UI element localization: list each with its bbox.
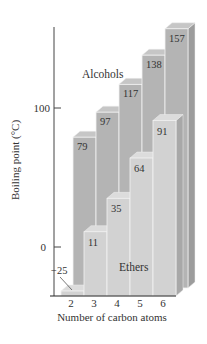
x-tick-label: 6 — [160, 297, 166, 309]
series-label-ethers: Ethers — [119, 261, 149, 273]
ether-value-label: 11 — [88, 237, 98, 248]
alcohol-value-label: 79 — [77, 141, 88, 152]
alcohol-value-label: 157 — [169, 33, 185, 44]
y-axis-label: Boiling point (°C) — [9, 120, 22, 201]
ether-value-label: 91 — [157, 126, 168, 137]
x-tick-label: 5 — [137, 297, 143, 309]
x-tick-labels: 23456 — [68, 297, 166, 309]
alcohol-value-label: 138 — [146, 59, 162, 70]
svg-text:−25: −25 — [51, 265, 67, 276]
x-tick-label: 2 — [68, 297, 74, 309]
ether-bar-4: 91 — [153, 115, 183, 296]
ytick-label-0: 0 — [41, 241, 47, 253]
ether-value-label: 35 — [111, 203, 122, 214]
alcohol-value-label: 117 — [123, 88, 138, 99]
series-label-alcohols: Alcohols — [82, 68, 124, 80]
ytick-label-100: 100 — [34, 102, 51, 114]
x-axis-label: Number of carbon atoms — [57, 311, 167, 323]
alcohol-value-label: 97 — [100, 116, 111, 127]
x-tick-label: 3 — [91, 297, 97, 309]
x-tick-label: 4 — [114, 297, 120, 309]
ether-value-label: 64 — [134, 163, 145, 174]
boiling-point-chart: 7997117138157 11356491 100 0 Boiling poi… — [0, 0, 207, 344]
